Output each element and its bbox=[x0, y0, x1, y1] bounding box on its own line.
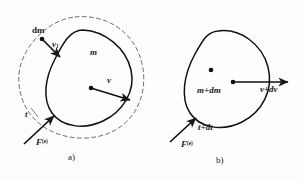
label-velocity-v1: v1 bbox=[52, 40, 59, 50]
label-body-mass-m-plus-dm: m+dm bbox=[197, 86, 221, 95]
caption-panel-a: a) bbox=[68, 152, 75, 162]
body-outline-m-plus-dm bbox=[184, 31, 269, 128]
label-external-force-b: F(e) bbox=[181, 140, 193, 149]
caption-panel-b: b) bbox=[216, 155, 224, 165]
label-element-mass-dm: dm bbox=[32, 26, 45, 35]
label-time-t-plus-dt: t+dt bbox=[198, 123, 213, 132]
label-time-t: t bbox=[25, 110, 28, 119]
leader-line-time-t bbox=[31, 108, 38, 117]
label-body-mass-m: m bbox=[90, 48, 97, 57]
panel-a bbox=[19, 17, 144, 144]
label-velocity-v: v bbox=[107, 76, 111, 85]
label-external-force-a: F(e) bbox=[36, 138, 48, 147]
arrow-icon-velocity-v bbox=[93, 89, 131, 101]
physics-figure bbox=[0, 0, 302, 181]
dot-icon-centroid-b bbox=[209, 68, 214, 73]
dot-icon-center-of-mass-m bbox=[89, 86, 94, 91]
label-velocity-v-plus-dv: v+dv bbox=[260, 85, 278, 94]
